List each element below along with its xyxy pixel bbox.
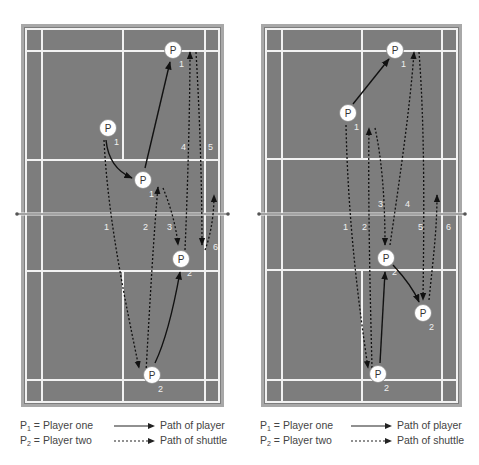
svg-text:P: P bbox=[375, 369, 382, 380]
net-post bbox=[463, 212, 467, 216]
svg-text:P: P bbox=[178, 254, 185, 265]
shot-number-5: 5 bbox=[418, 222, 423, 232]
legend-p1: P1 = Player one bbox=[260, 418, 333, 433]
dashed-arrow-icon bbox=[114, 437, 156, 445]
svg-text:2: 2 bbox=[158, 384, 163, 394]
shot-number-5: 5 bbox=[208, 142, 213, 152]
svg-text:1: 1 bbox=[114, 137, 119, 147]
shot-number-4: 4 bbox=[181, 142, 186, 152]
legend-p1: P1 = Player one bbox=[20, 418, 93, 433]
solid-arrow-icon bbox=[351, 422, 393, 430]
legend-players-left: P1 = Player one P2 = Player two bbox=[20, 418, 93, 448]
shot-number-6: 6 bbox=[446, 222, 451, 232]
svg-text:P: P bbox=[170, 45, 177, 56]
svg-text:2: 2 bbox=[187, 268, 192, 278]
legend-p2: P2 = Player two bbox=[260, 433, 333, 448]
svg-text:1: 1 bbox=[401, 59, 406, 69]
shot-number-3: 3 bbox=[378, 199, 383, 209]
svg-text:1: 1 bbox=[179, 59, 184, 69]
badminton-diagrams: P1P1P1P2P2P1P1P2P2P2 123456123456 bbox=[0, 0, 479, 410]
svg-text:1: 1 bbox=[149, 189, 154, 199]
shot-number-3: 3 bbox=[167, 222, 172, 232]
legend-player-path: Path of player bbox=[114, 418, 227, 433]
shot-number-2: 2 bbox=[362, 222, 367, 232]
solid-arrow-icon bbox=[114, 422, 156, 430]
net-post bbox=[257, 212, 261, 216]
legend-shuttle-path: Path of shuttle bbox=[114, 433, 227, 448]
svg-text:P: P bbox=[420, 308, 427, 319]
svg-text:2: 2 bbox=[392, 267, 397, 277]
dashed-arrow-icon bbox=[351, 437, 393, 445]
shot-number-2: 2 bbox=[143, 222, 148, 232]
svg-text:P: P bbox=[392, 45, 399, 56]
legend-shuttle-path: Path of shuttle bbox=[351, 433, 464, 448]
svg-text:P: P bbox=[149, 370, 156, 381]
svg-text:1: 1 bbox=[354, 122, 359, 132]
net-post bbox=[226, 212, 230, 216]
shot-number-1: 1 bbox=[343, 222, 348, 232]
legend-player-path: Path of player bbox=[351, 418, 464, 433]
legend-p2: P2 = Player two bbox=[20, 433, 93, 448]
svg-text:P: P bbox=[383, 253, 390, 264]
shot-number-4: 4 bbox=[405, 199, 410, 209]
net-post bbox=[15, 212, 19, 216]
svg-text:P: P bbox=[105, 123, 112, 134]
legend-players-right: P1 = Player one P2 = Player two bbox=[260, 418, 333, 448]
svg-text:2: 2 bbox=[429, 322, 434, 332]
svg-text:2: 2 bbox=[384, 383, 389, 393]
shot-number-1: 1 bbox=[104, 222, 109, 232]
legend-paths-left: Path of player Path of shuttle bbox=[114, 418, 227, 448]
shot-number-6: 6 bbox=[213, 242, 218, 252]
svg-text:P: P bbox=[140, 175, 147, 186]
left-court bbox=[15, 24, 230, 407]
legend-paths-right: Path of player Path of shuttle bbox=[351, 418, 464, 448]
right-court bbox=[257, 24, 467, 407]
svg-text:P: P bbox=[345, 108, 352, 119]
